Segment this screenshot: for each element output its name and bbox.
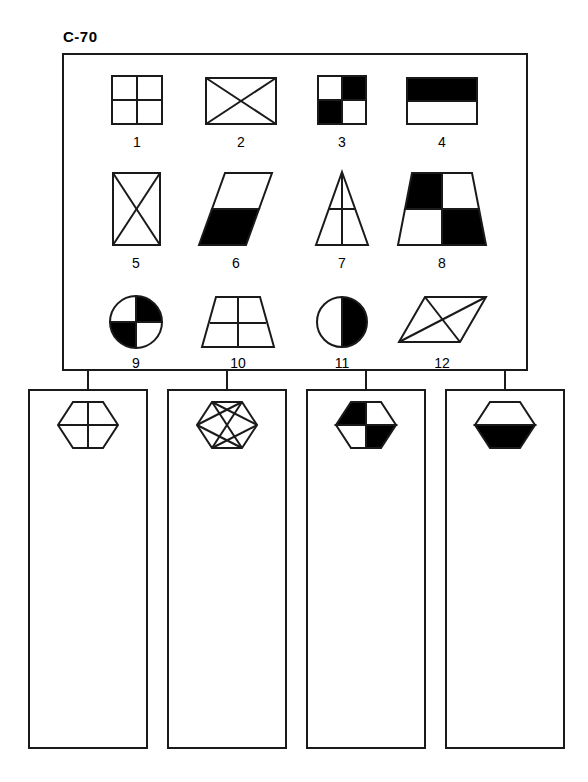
- bank-item-number: 4: [438, 134, 446, 150]
- quadrant-bottom-left: [318, 100, 342, 124]
- quadrant-top-right: [342, 76, 366, 100]
- bank-item-number: 2: [237, 134, 245, 150]
- answer-column-1[interactable]: [29, 390, 147, 748]
- bank-item-number: 3: [338, 134, 346, 150]
- bank-item-number: 7: [338, 255, 346, 271]
- quadrant-bottom-right: [442, 209, 486, 245]
- worksheet: C-70 1 2 3 4: [0, 0, 588, 782]
- answer-column-3[interactable]: [307, 390, 425, 748]
- worksheet-canvas: 1 2 3 4 5: [0, 0, 588, 782]
- bank-item-number: 5: [132, 255, 140, 271]
- bank-item-number: 11: [335, 355, 350, 371]
- bank-item-number: 10: [230, 355, 246, 371]
- quadrant-top-left: [405, 173, 442, 209]
- bank-item-number: 8: [438, 255, 446, 271]
- quadrant-bottom-left: [398, 209, 442, 245]
- bank-item-number: 9: [132, 355, 140, 371]
- half-bottom-white: [407, 101, 477, 124]
- bank-item-number: 12: [434, 355, 450, 371]
- answer-column-4[interactable]: [446, 390, 564, 748]
- half-top-black: [407, 78, 477, 101]
- answer-column-2[interactable]: [168, 390, 286, 748]
- bank-item-number: 6: [232, 255, 240, 271]
- quadrant-top-right: [442, 173, 479, 209]
- quadrant-top-left: [318, 76, 342, 100]
- connector-tree: [88, 370, 505, 390]
- quadrant-bottom-right: [342, 100, 366, 124]
- bank-item-number: 1: [133, 134, 141, 150]
